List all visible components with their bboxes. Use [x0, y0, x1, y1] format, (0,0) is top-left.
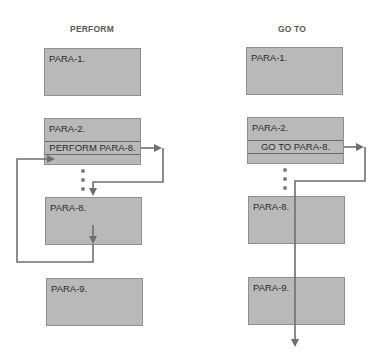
perform-para-9-label: PARA-9.	[51, 283, 87, 294]
goto-para-8-box: PARA-8.	[248, 196, 345, 244]
ellipsis-dot	[81, 169, 85, 173]
perform-para-1-box: PARA-1.	[44, 48, 141, 96]
ellipsis-dot	[283, 168, 287, 172]
ellipsis-dot	[283, 177, 287, 181]
perform-para-2-label: PARA-2.	[49, 123, 85, 134]
goto-para-1-box: PARA-1.	[246, 47, 343, 95]
perform-para-2-box: PARA-2. PERFORM PARA-8.	[44, 118, 141, 165]
goto-column-title: GO TO	[278, 24, 306, 34]
perform-statement: PERFORM PARA-8.	[45, 141, 140, 155]
goto-statement: GO TO PARA-8.	[248, 140, 343, 154]
ellipsis-dot	[81, 178, 85, 182]
perform-para-8-box: PARA-8.	[45, 197, 142, 245]
perform-para-9-box: PARA-9.	[46, 278, 143, 326]
perform-para-8-label: PARA-8.	[50, 202, 86, 213]
perform-para-1-label: PARA-1.	[49, 53, 85, 64]
ellipsis-dot	[283, 186, 287, 190]
goto-para-8-label: PARA-8.	[253, 201, 289, 212]
perform-column-title: PERFORM	[70, 24, 114, 34]
ellipsis-dot	[81, 187, 85, 191]
goto-para-9-box: PARA-9.	[248, 277, 345, 325]
goto-para-1-label: PARA-1.	[251, 52, 287, 63]
goto-para-2-label: PARA-2.	[252, 122, 288, 133]
goto-para-2-box: PARA-2. GO TO PARA-8.	[247, 117, 344, 164]
goto-para-9-label: PARA-9.	[253, 282, 289, 293]
